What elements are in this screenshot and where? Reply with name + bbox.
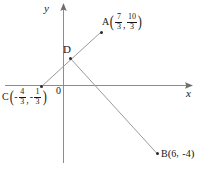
- fraction-a-y-numerator: 10: [127, 13, 137, 21]
- x-axis-label: x: [186, 88, 191, 99]
- open-paren: (: [9, 90, 13, 104]
- fraction-c-x: 4 3: [19, 88, 26, 106]
- fraction-c-y-denominator: 3: [35, 98, 41, 106]
- point-label-d: D: [63, 44, 71, 55]
- coordinate-separator: ,: [26, 95, 29, 106]
- fraction-a-x-numerator: 7: [116, 13, 122, 21]
- y-axis: [60, 3, 66, 163]
- y-axis-label: y: [44, 3, 49, 14]
- close-paren: ): [191, 148, 195, 159]
- point-label-c: C ( - 4 3 , - 1 3 ): [2, 88, 47, 106]
- open-paren: (: [110, 15, 114, 29]
- fraction-c-x-numerator: 4: [19, 88, 25, 96]
- origin-label: 0: [56, 86, 61, 96]
- fraction-a-x: 7 3: [115, 13, 122, 31]
- point-label-a: A ( 7 3 , 10 3 ): [102, 13, 143, 31]
- point-b-y-value: -4: [182, 149, 190, 159]
- fraction-a-x-denominator: 3: [116, 23, 122, 31]
- point-label-a-content: A ( 7 3 , 10 3 ): [102, 13, 143, 31]
- segment-D-B: [70, 58, 157, 154]
- coordinate-figure: y x 0 D A ( 7 3 , 10 3 ) B ( 6 ,: [0, 0, 204, 169]
- point-marker-a: [100, 31, 103, 34]
- fraction-a-y-denominator: 3: [129, 23, 135, 31]
- close-paren: ): [42, 90, 46, 104]
- coordinate-separator: ,: [123, 20, 126, 31]
- close-paren: ): [138, 15, 142, 29]
- fraction-c-y-numerator: 1: [35, 88, 41, 96]
- point-c-x-sign: -: [14, 92, 17, 102]
- point-label-c-name: C: [2, 92, 9, 102]
- coordinate-separator: ,: [176, 148, 181, 159]
- point-label-b-content: B ( 6 , -4 ): [161, 148, 194, 159]
- point-label-b-name: B: [161, 149, 168, 159]
- point-label-c-content: C ( - 4 3 , - 1 3 ): [2, 88, 47, 106]
- point-marker-d: [69, 57, 72, 60]
- point-label-b: B ( 6 , -4 ): [161, 148, 194, 159]
- point-label-a-name: A: [102, 17, 109, 27]
- point-marker-b: [156, 152, 159, 155]
- fraction-c-y: 1 3: [34, 88, 41, 106]
- fraction-c-x-denominator: 3: [19, 98, 25, 106]
- point-c-y-sign: -: [30, 92, 33, 102]
- fraction-a-y: 10 3: [127, 13, 137, 31]
